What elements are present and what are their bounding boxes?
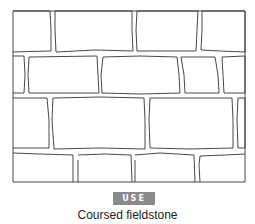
figure-caption: Coursed fieldstone <box>0 208 255 222</box>
stone <box>13 56 25 93</box>
stone <box>13 98 49 148</box>
stone <box>199 156 200 182</box>
stone <box>222 56 245 93</box>
stone <box>13 153 73 182</box>
stone <box>52 97 145 149</box>
coursed-fieldstone-wall-diagram <box>0 0 255 190</box>
stone <box>101 56 180 94</box>
stone <box>237 98 245 148</box>
stone <box>181 57 219 93</box>
stone <box>135 153 195 182</box>
stone <box>201 11 245 52</box>
stone <box>13 11 51 52</box>
stone <box>136 11 198 51</box>
stone <box>200 154 245 156</box>
use-badge: USE <box>113 192 155 205</box>
stone <box>28 56 99 93</box>
stone <box>149 98 233 149</box>
stone <box>55 11 133 52</box>
stone <box>78 154 132 182</box>
wall-frame <box>13 11 245 182</box>
